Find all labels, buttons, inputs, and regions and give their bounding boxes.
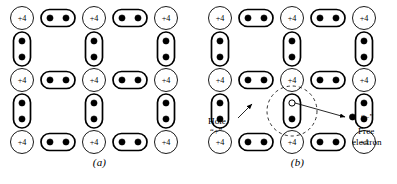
bond-capsule bbox=[239, 10, 273, 27]
bond-capsule bbox=[311, 72, 345, 89]
core-charge-label: +4 bbox=[216, 76, 225, 85]
lattice-diagram-a: +4+4+4+4+4+4+4+4+4 bbox=[0, 0, 199, 160]
bond-capsule bbox=[41, 10, 75, 27]
caption-b: (b) bbox=[198, 156, 397, 168]
valence-electron bbox=[47, 77, 53, 83]
silicon-core: +4 bbox=[209, 7, 232, 30]
covalent-bond-vertical bbox=[158, 32, 175, 66]
covalent-bond-vertical bbox=[356, 32, 373, 66]
valence-electron bbox=[91, 54, 97, 60]
covalent-bond-horizontal bbox=[41, 134, 75, 151]
covalent-bond-horizontal bbox=[311, 72, 345, 89]
core-charge-label: +4 bbox=[90, 76, 99, 85]
hole-pointer-arrow bbox=[238, 104, 252, 118]
bond-capsule bbox=[14, 94, 31, 128]
semiconductor-lattice-figure: +4+4+4+4+4+4+4+4+4 (a) +4+4+4+4+4+4+4+4+… bbox=[0, 0, 397, 184]
valence-electron bbox=[47, 15, 53, 21]
core-charge-label: +4 bbox=[216, 14, 225, 23]
bond-capsule bbox=[239, 72, 273, 89]
bond-capsule bbox=[113, 10, 147, 27]
silicon-core: +4 bbox=[11, 131, 34, 154]
valence-electron bbox=[317, 139, 323, 145]
covalent-bond-horizontal bbox=[239, 10, 273, 27]
valence-electron bbox=[217, 54, 223, 60]
valence-electron bbox=[63, 15, 69, 21]
core-charge-label: +4 bbox=[288, 76, 297, 85]
valence-electron bbox=[261, 139, 267, 145]
bond-capsule bbox=[239, 134, 273, 151]
core-charge-label: +4 bbox=[18, 76, 27, 85]
bond-capsule bbox=[212, 32, 229, 66]
valence-electron bbox=[163, 54, 169, 60]
valence-electron bbox=[245, 15, 251, 21]
core-charge-label: +4 bbox=[216, 138, 225, 147]
core-charge-label: +4 bbox=[162, 138, 171, 147]
valence-electron bbox=[361, 38, 367, 44]
valence-electron bbox=[217, 38, 223, 44]
silicon-core: +4 bbox=[353, 69, 376, 92]
core-charge-label: +4 bbox=[18, 14, 27, 23]
bond-capsule bbox=[158, 94, 175, 128]
free-electron-label-line2: electron bbox=[352, 137, 382, 147]
silicon-core: +4 bbox=[11, 7, 34, 30]
valence-electron bbox=[119, 139, 125, 145]
valence-electron bbox=[261, 77, 267, 83]
bond-capsule bbox=[113, 134, 147, 151]
valence-electron bbox=[333, 15, 339, 21]
bond-capsule bbox=[311, 10, 345, 27]
panel-b-broken-bond-lattice: +4+4+4+4+4+4+4+4+4Hole“+”“−”Freeelectron… bbox=[198, 0, 397, 184]
valence-electron bbox=[19, 54, 25, 60]
silicon-core: +4 bbox=[281, 7, 304, 30]
silicon-core: +4 bbox=[83, 69, 106, 92]
valence-electron bbox=[135, 15, 141, 21]
core-charge-label: +4 bbox=[288, 138, 297, 147]
covalent-bond-vertical bbox=[158, 94, 175, 128]
silicon-core: +4 bbox=[11, 69, 34, 92]
core-charge-label: +4 bbox=[90, 14, 99, 23]
covalent-bond-horizontal bbox=[113, 72, 147, 89]
core-charge-label: +4 bbox=[288, 14, 297, 23]
core-charge-label: +4 bbox=[162, 14, 171, 23]
valence-electron bbox=[163, 100, 169, 106]
hole-label-line1: Hole bbox=[208, 116, 226, 126]
valence-electron bbox=[289, 38, 295, 44]
caption-a: (a) bbox=[0, 156, 199, 168]
covalent-bond-horizontal bbox=[113, 134, 147, 151]
bond-capsule bbox=[284, 94, 301, 128]
valence-electron bbox=[135, 139, 141, 145]
bond-capsule bbox=[113, 72, 147, 89]
bond-capsule bbox=[311, 134, 345, 151]
valence-electron bbox=[19, 116, 25, 122]
valence-electron bbox=[163, 116, 169, 122]
free-electron-dot bbox=[349, 114, 355, 120]
free-electron-label-line1: Free bbox=[358, 126, 374, 136]
valence-electron bbox=[317, 15, 323, 21]
valence-electron bbox=[261, 15, 267, 21]
valence-electron bbox=[333, 77, 339, 83]
valence-electron bbox=[333, 139, 339, 145]
bond-capsule bbox=[41, 134, 75, 151]
covalent-bond-vertical bbox=[14, 94, 31, 128]
bond-capsule bbox=[86, 94, 103, 128]
core-charge-label: +4 bbox=[90, 138, 99, 147]
covalent-bond-horizontal bbox=[311, 134, 345, 151]
valence-electron bbox=[317, 77, 323, 83]
free-electron-marker: “−” bbox=[361, 113, 373, 122]
valence-electron bbox=[289, 54, 295, 60]
valence-electron bbox=[245, 77, 251, 83]
valence-electron bbox=[217, 100, 223, 106]
silicon-core: +4 bbox=[281, 69, 304, 92]
silicon-core: +4 bbox=[155, 7, 178, 30]
silicon-core: +4 bbox=[83, 131, 106, 154]
covalent-bond-vertical bbox=[356, 94, 373, 128]
valence-electron bbox=[163, 38, 169, 44]
panel-a-intrinsic-lattice: +4+4+4+4+4+4+4+4+4 (a) bbox=[0, 0, 199, 184]
silicon-core: +4 bbox=[155, 69, 178, 92]
bond-capsule bbox=[356, 94, 373, 128]
free-electron-path-arrow bbox=[295, 103, 345, 117]
valence-electron bbox=[47, 139, 53, 145]
core-charge-label: +4 bbox=[360, 76, 369, 85]
bond-capsule bbox=[158, 32, 175, 66]
valence-electron bbox=[91, 100, 97, 106]
covalent-bond-vertical bbox=[284, 94, 301, 128]
